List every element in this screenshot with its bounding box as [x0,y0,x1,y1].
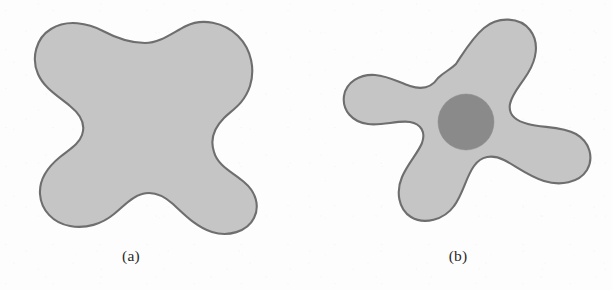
panel-a-caption: (a) [0,247,284,265]
figure-panel-b: (b) [306,0,612,290]
inner-disk-b [438,94,494,150]
panel-b-caption: (b) [305,247,611,265]
figure-panel-a: (a) [0,0,306,290]
figure-page: (a) (b) [0,0,612,290]
blob-shape-a [0,0,306,245]
blob-shape-b [306,0,612,245]
